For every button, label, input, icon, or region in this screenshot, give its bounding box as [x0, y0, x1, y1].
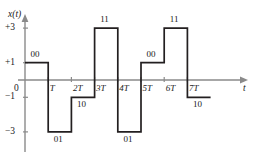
dibit-label: 01: [123, 135, 132, 144]
dibit-label: 10: [193, 100, 202, 109]
y-tick-label: −1: [5, 92, 15, 102]
y-axis-arrowhead: [22, 14, 29, 22]
x-tick-label: T: [50, 84, 55, 93]
x-tick-label: 4T: [119, 84, 129, 93]
y-tick-label: +1: [5, 58, 15, 68]
dibit-label: 00: [147, 50, 156, 59]
dibit-label: 01: [54, 135, 63, 144]
y-tick-label: −3: [5, 127, 15, 137]
y-tick-label: +3: [5, 23, 15, 33]
waveform-figure: x(t) t 0 +3+1−1−3 T2T3T4T5T6T7T 00011011…: [0, 0, 258, 161]
x-tick-label: 2T: [73, 84, 83, 93]
x-tick-label: 3T: [96, 84, 106, 93]
x-tick-label: 7T: [189, 84, 199, 93]
dibit-label: 10: [77, 100, 86, 109]
x-axis-label: t: [243, 84, 246, 94]
x-tick-label: 5T: [143, 84, 153, 93]
dibit-label: 00: [31, 50, 40, 59]
dibit-label: 11: [100, 15, 109, 24]
dibit-label: 11: [170, 15, 179, 24]
x-tick-label: 6T: [166, 84, 176, 93]
y-axis-label: x(t): [8, 10, 21, 20]
